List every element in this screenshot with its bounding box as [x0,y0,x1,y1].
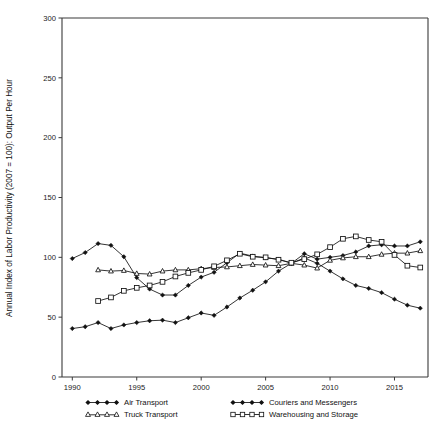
data-point [353,254,358,258]
data-point [160,293,164,297]
y-tick-labels: 050100150200250300 [43,14,56,382]
data-point [83,325,87,329]
y-tick-label: 100 [43,253,56,262]
data-point [199,311,203,315]
chart-series [70,234,422,331]
data-point [251,288,255,292]
data-point [96,299,101,304]
legend-marker-open-square [229,410,265,419]
data-point [173,267,178,271]
legend-item-warehousing-and-storage: Warehousing and Storage [229,410,414,419]
data-point [379,239,384,244]
data-point [122,288,127,293]
legend-marker-filled-diamond [229,398,265,407]
legend-row: Truck Transport Warehousing and Storage [0,410,435,419]
data-point [109,268,114,272]
data-point [302,257,307,262]
data-point [96,267,101,271]
y-tick-label: 150 [43,193,56,202]
series-warehousing-and-storage [96,234,423,303]
data-point [263,263,268,267]
data-point [212,264,217,269]
data-point [70,326,74,330]
data-point [186,316,190,320]
data-point [160,318,164,322]
data-point [160,268,165,272]
data-point [315,252,320,257]
data-point [121,268,126,272]
data-point [315,257,319,261]
data-point [263,255,268,260]
data-point [147,319,151,323]
x-tick-labels: 199019952000200520102015 [64,383,403,392]
data-point [237,263,242,267]
data-point [379,290,383,294]
data-point [199,268,204,273]
series-truck-transport [96,248,423,276]
data-point [405,303,409,307]
data-point [341,236,346,241]
data-point [354,283,358,287]
chart-figure: 050100150200250300 199019952000200520102… [0,0,435,447]
data-point [212,313,216,317]
legend-label-truck-transport: Truck Transport [124,410,178,419]
data-point [366,238,371,243]
data-point [109,295,114,300]
data-point [160,280,165,285]
y-tick-label: 50 [48,313,56,322]
data-point [173,320,177,324]
data-point [392,253,397,258]
data-point [173,274,178,279]
y-tick-label: 0 [52,373,56,382]
data-point [379,252,384,256]
data-point [418,240,422,244]
legend-label-couriers-and-messengers: Couriers and Messengers [269,398,357,407]
legend-row: Air Transport Couriers and Messengers [0,398,435,407]
legend-marker-open-triangle [84,410,120,419]
data-point [225,264,230,268]
legend-label-air-transport: Air Transport [124,398,168,407]
x-tick-label: 2010 [322,383,339,392]
legend-item-truck-transport: Truck Transport [84,410,229,419]
x-tick-label: 1995 [128,383,145,392]
y-tick-label: 200 [43,133,56,142]
y-axis-label: Annual Index of Labor Productivity (2007… [5,79,14,317]
data-point [328,269,332,273]
data-point [96,320,100,324]
data-point [122,323,126,327]
data-point [289,260,294,265]
x-tick-label: 2005 [257,383,274,392]
data-point [328,245,333,250]
data-point [367,286,371,290]
x-tick-label: 1990 [64,383,81,392]
data-point [418,306,422,310]
data-point [225,258,230,263]
data-point [353,234,358,239]
chart-ticks [59,18,395,381]
data-point [109,326,113,330]
data-point [276,263,281,267]
data-point [70,256,74,260]
data-point [237,251,242,256]
legend-item-couriers-and-messengers: Couriers and Messengers [229,398,414,407]
line-chart: 050100150200250300 199019952000200520102… [0,0,435,398]
data-point [392,297,396,301]
data-point [250,254,255,259]
data-point [276,257,281,262]
data-point [418,265,423,270]
data-point [250,262,255,266]
data-point [367,244,371,248]
data-point [328,258,333,262]
chart-axes [62,18,428,377]
y-tick-label: 250 [43,74,56,83]
data-point [134,271,139,275]
data-point [405,244,409,248]
legend-marker-filled-diamond [84,398,120,407]
y-tick-label: 300 [43,14,56,23]
legend-item-air-transport: Air Transport [84,398,229,407]
data-point [315,266,320,270]
data-point [147,283,152,288]
data-point [405,251,410,255]
data-point [199,275,203,279]
data-point [147,271,152,275]
